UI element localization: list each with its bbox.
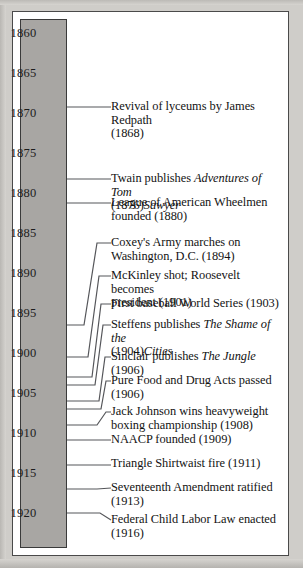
year-tick-label: 1890 [0,267,47,280]
event-text-line: boxing championship (1908) [111,419,283,433]
event-entry: League of American Wheelmenfounded (1880… [111,196,283,223]
event-text-line: First baseball World Series (1903) [111,297,283,311]
event-text-line: Pure Food and Drug Acts passed [111,374,283,388]
page-edge-shadow-bottom [0,559,303,568]
year-tick-label: 1865 [0,67,47,80]
event-text-line: Federal Child Labor Law enacted [111,513,283,527]
event-text-line: McKinley shot; Roosevelt becomes [111,269,283,296]
year-tick-label: 1875 [0,147,47,160]
event-text-line: (1868) [111,127,283,141]
event-text-line: founded (1880) [111,210,283,224]
event-entry: NAACP founded (1909) [111,433,283,447]
event-text-line: Jack Johnson wins heavyweight [111,405,283,419]
year-tick-label: 1920 [0,507,47,520]
year-tick-label: 1860 [0,27,47,40]
year-tick-label: 1895 [0,307,47,320]
event-text-line: (1916) [111,527,283,541]
event-text-line: (1906) [111,388,283,402]
event-text-line: League of American Wheelmen [111,196,283,210]
page-edge-shadow-top [0,0,303,5]
event-entry: Pure Food and Drug Acts passed(1906) [111,374,283,401]
event-text-line: Washington, D.C. (1894) [111,250,283,264]
event-text-line: NAACP founded (1909) [111,433,283,447]
event-title-italic: The Shame of the [111,317,270,345]
event-text-line: Steffens publishes The Shame of the [111,318,283,345]
year-tick-label: 1880 [0,187,47,200]
event-text-line: Revival of lyceums by James Redpath [111,100,283,127]
event-text-line: Coxey's Army marches on [111,236,283,250]
event-text-line: Triangle Shirtwaist fire (1911) [111,457,283,471]
event-entry: Federal Child Labor Law enacted(1916) [111,513,283,540]
year-tick-label: 1900 [0,347,47,360]
event-entry: Jack Johnson wins heavyweightboxing cham… [111,405,283,432]
event-text-line: (1913) [111,495,283,509]
event-entry: Coxey's Army marches onWashington, D.C. … [111,236,283,263]
year-tick-label: 1915 [0,467,47,480]
year-tick-label: 1910 [0,427,47,440]
year-tick-label: 1870 [0,107,47,120]
event-entry: Seventeenth Amendment ratified(1913) [111,481,283,508]
event-entry: Revival of lyceums by James Redpath(1868… [111,100,283,141]
event-title-italic: The Jungle [202,349,256,363]
page-edge-shadow-left [0,0,6,568]
event-entry: Triangle Shirtwaist fire (1911) [111,457,283,471]
timeline-figure-page: 1860186518701875188018851890189519001905… [0,0,303,568]
year-tick-label: 1885 [0,227,47,240]
event-entry: First baseball World Series (1903) [111,297,283,311]
year-tick-label: 1905 [0,387,47,400]
event-text-line: Seventeenth Amendment ratified [111,481,283,495]
